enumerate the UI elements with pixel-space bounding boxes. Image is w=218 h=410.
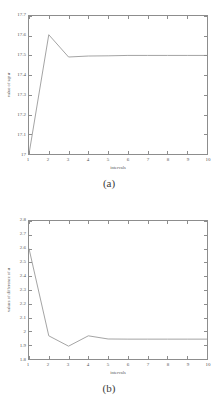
y-tick [204,262,207,263]
y-tick [29,290,32,291]
y-tick [29,235,32,236]
x-tick [148,356,149,359]
x-tick [167,221,168,224]
x-tick [69,151,70,154]
x-tick [167,356,168,359]
x-tick-label: 7 [147,157,150,163]
y-tick [204,290,207,291]
x-tick-label: 9 [187,157,190,163]
y-axis-title-a: value of sqr a [6,73,12,98]
plot-area-b [28,220,208,360]
x-tick [69,356,70,359]
y-tick-label: 2.8 [20,217,26,223]
subfigure-caption-b: (b) [0,381,218,395]
x-tick [88,356,89,359]
y-tick-label: 1.9 [20,343,26,349]
y-tick [204,95,207,96]
y-tick [29,115,32,116]
x-tick [187,16,188,19]
x-tick-label: 5 [107,362,110,368]
y-tick-label: 2.5 [20,259,26,265]
y-tick-label: 2.3 [20,287,26,293]
x-tick [148,16,149,19]
x-tick-label: 10 [206,157,211,163]
x-tick [128,16,129,19]
subfigure-caption-a: (a) [0,176,218,190]
y-tick [29,304,32,305]
x-tick [49,151,50,154]
figure-a: 12345678910 1717.117.217.317.417.517.617… [0,0,218,205]
x-tick [167,151,168,154]
x-tick-label: 1 [27,157,30,163]
x-tick [49,356,50,359]
y-tick-label: 2 [24,329,27,335]
figure-b: 12345678910 1.81.922.12.22.32.42.52.62.7… [0,205,218,410]
y-tick-label: 2.4 [20,273,26,279]
x-tick [49,221,50,224]
y-tick [29,318,32,319]
y-tick-label: 1.8 [20,357,26,363]
x-tick [128,151,129,154]
y-tick-label: 2.6 [20,245,26,251]
y-tick [204,16,207,17]
x-axis-title-a: intervals [110,165,126,171]
y-tick [29,55,32,56]
x-tick-label: 2 [47,362,50,368]
x-tick [207,221,208,224]
x-tick [207,356,208,359]
y-tick [204,359,207,360]
y-tick [29,16,32,17]
y-tick [29,95,32,96]
x-tick-label: 6 [127,157,130,163]
x-tick [207,16,208,19]
y-tick [204,154,207,155]
x-tick-label: 8 [167,157,170,163]
x-tick-label: 6 [127,362,130,368]
y-axis-title-a-text: value of sqr [6,75,11,97]
x-tick-label: 3 [67,157,70,163]
y-tick-label: 2.7 [20,231,26,237]
x-tick-label: 9 [187,362,190,368]
x-tick [88,221,89,224]
x-tick-label: 10 [206,362,211,368]
y-tick-label: 17.6 [17,32,26,38]
x-tick [167,16,168,19]
x-tick [88,151,89,154]
y-tick-label: 2.2 [20,301,26,307]
y-tick-label: 2.1 [20,315,26,321]
y-tick-label: 17.1 [17,132,26,138]
x-tick-label: 5 [107,157,110,163]
y-tick [204,75,207,76]
x-tick [128,356,129,359]
figure-page: 12345678910 1717.117.217.317.417.517.617… [0,0,218,410]
y-tick [204,55,207,56]
x-tick-label: 7 [147,362,150,368]
y-tick [204,115,207,116]
y-tick [204,134,207,135]
x-tick-label: 1 [27,362,30,368]
y-tick [29,154,32,155]
y-tick [204,276,207,277]
x-tick [69,221,70,224]
y-tick [204,249,207,250]
y-axis-title-b-text: values of difference of [6,270,11,312]
y-tick [29,36,32,37]
x-tick [187,356,188,359]
y-tick [29,331,32,332]
y-tick [29,359,32,360]
x-tick [128,221,129,224]
plot-area-a [28,15,208,155]
y-tick-label: 17 [21,152,26,158]
x-tick [148,221,149,224]
x-tick-label: 4 [87,157,90,163]
y-tick-label: 17.2 [17,112,26,118]
y-tick-label: 17.4 [17,72,26,78]
y-tick-label: 17.7 [17,12,26,18]
x-tick-label: 4 [87,362,90,368]
x-tick-label: 3 [67,362,70,368]
y-axis-title-b-symbol: a [6,268,11,270]
y-tick [204,221,207,222]
x-tick [207,151,208,154]
y-tick [204,318,207,319]
y-tick-label: 17.3 [17,92,26,98]
